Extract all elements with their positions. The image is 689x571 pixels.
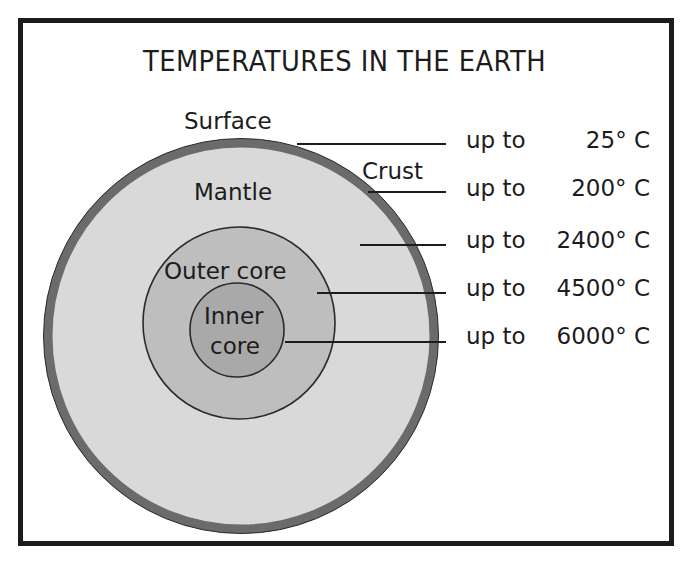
temperature-prefix: up to — [466, 226, 526, 254]
temperature-prefix: up to — [466, 126, 526, 154]
temperature-prefix: up to — [466, 174, 526, 202]
temperature-prefix: up to — [466, 274, 526, 302]
temperature-value: 2400° C — [557, 226, 650, 254]
inner-core-circle — [190, 283, 284, 377]
label-surface: Surface — [184, 110, 272, 133]
temperature-row-crust: up to 200° C — [466, 174, 650, 202]
temperature-value: 6000° C — [557, 322, 650, 350]
temperature-value: 25° C — [586, 126, 650, 154]
temperature-value: 4500° C — [557, 274, 650, 302]
label-inner-core-line1: Inner — [204, 305, 264, 328]
label-inner-core-line2: core — [210, 335, 260, 358]
label-mantle: Mantle — [194, 181, 272, 204]
temperature-prefix: up to — [466, 322, 526, 350]
temperature-row-surface: up to 25° C — [466, 126, 650, 154]
temperature-row-mantle: up to 2400° C — [466, 226, 650, 254]
temperature-row-outer-core: up to 4500° C — [466, 274, 650, 302]
label-crust: Crust — [362, 160, 423, 183]
temperature-row-inner-core: up to 6000° C — [466, 322, 650, 350]
temperature-value: 200° C — [571, 174, 650, 202]
label-outer-core: Outer core — [164, 260, 286, 283]
